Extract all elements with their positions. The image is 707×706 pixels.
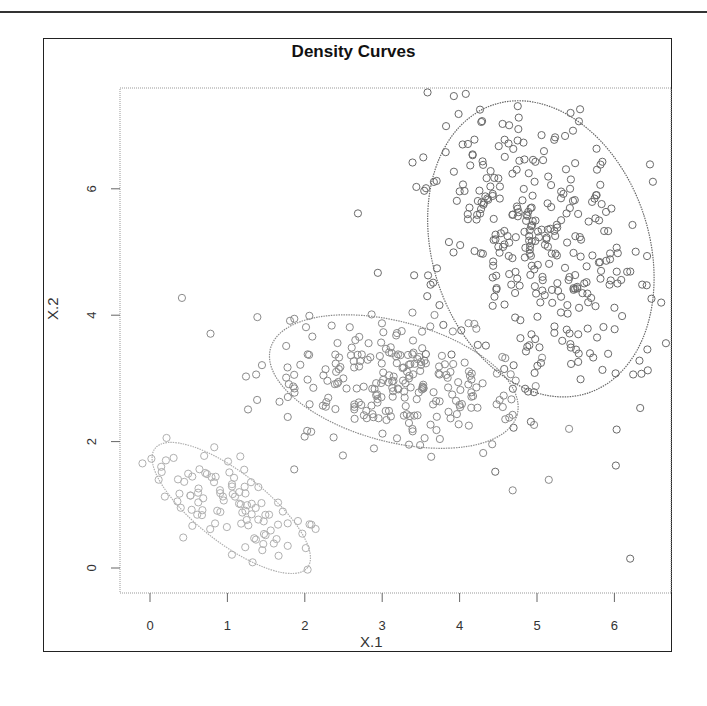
x-tick-label: 6: [611, 618, 618, 633]
scatter-plot: 0123456 0246: [0, 0, 707, 706]
x-tick-label: 2: [301, 618, 308, 633]
x-tick-label: 1: [224, 618, 231, 633]
plot-area: [120, 88, 671, 593]
x-tick-label: 0: [146, 618, 153, 633]
y-axis: 0246: [84, 185, 120, 571]
y-tick-label: 2: [84, 438, 99, 445]
x-tick-label: 5: [533, 618, 540, 633]
x-tick-label: 3: [379, 618, 386, 633]
x-axis: 0123456: [146, 593, 618, 633]
x-tick-label: 4: [456, 618, 463, 633]
y-axis-label: X.2: [44, 297, 61, 320]
x-axis-label: X.1: [360, 633, 383, 650]
data-points: [139, 89, 670, 573]
y-tick-label: 6: [84, 185, 99, 192]
y-tick-label: 4: [84, 312, 99, 319]
density-ellipses: [134, 71, 691, 595]
y-tick-label: 0: [84, 564, 99, 571]
